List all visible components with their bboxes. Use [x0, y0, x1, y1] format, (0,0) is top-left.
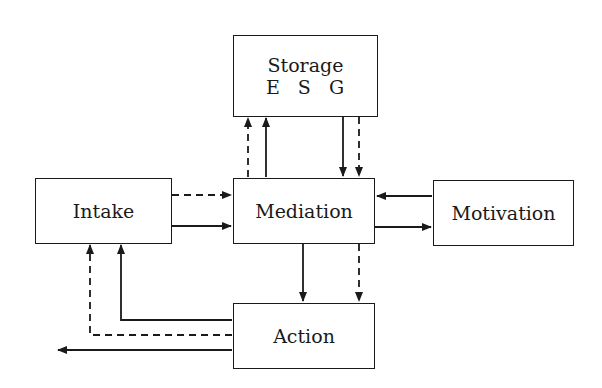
- motivation-label: Motivation: [451, 202, 555, 224]
- storage-label: Storage: [268, 54, 344, 76]
- mediation-box: Mediation: [233, 178, 375, 244]
- intake-label: Intake: [73, 200, 134, 222]
- edge-action-intake-solid: [121, 245, 232, 320]
- motivation-box: Motivation: [433, 180, 574, 246]
- action-box: Action: [233, 303, 375, 369]
- edge-action-intake-dashed: [90, 245, 232, 335]
- mediation-label: Mediation: [255, 200, 353, 222]
- storage-box: Storage E S G: [233, 35, 378, 117]
- storage-sublabel: E S G: [266, 76, 345, 98]
- action-label: Action: [273, 325, 335, 347]
- intake-box: Intake: [35, 178, 172, 244]
